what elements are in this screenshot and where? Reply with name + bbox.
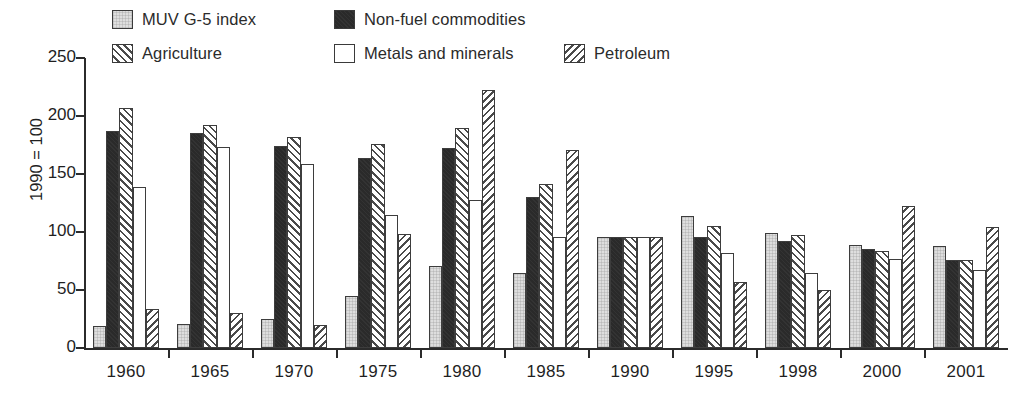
bar-muv-1985 [513, 273, 526, 348]
x-axis-tick-label-1970: 1970 [249, 362, 339, 382]
y-axis-tick-label: 100 [16, 221, 76, 241]
x-axis-tick-mark [252, 349, 254, 358]
bar-group-1985 [513, 57, 580, 348]
bar-nonfuel-1980 [442, 148, 455, 348]
bar-nonfuel-2000 [862, 249, 875, 348]
y-axis-tick-mark [76, 347, 85, 349]
bar-petro-2000 [902, 206, 915, 348]
bar-metals-1975 [385, 215, 398, 348]
bar-nonfuel-1990 [610, 237, 623, 348]
bar-metals-2001 [973, 270, 986, 348]
x-axis-tick-label-2000: 2000 [837, 362, 927, 382]
bar-nonfuel-1965 [190, 133, 203, 348]
bar-muv-1995 [681, 216, 694, 348]
bar-petro-1975 [398, 234, 411, 348]
bar-petro-1990 [650, 237, 663, 348]
bar-nonfuel-1975 [358, 158, 371, 348]
y-axis-tick-mark [76, 115, 85, 117]
bar-petro-1998 [818, 290, 831, 348]
bar-nonfuel-1960 [106, 131, 119, 348]
bar-muv-2000 [849, 245, 862, 348]
y-axis-tick-label: 200 [16, 105, 76, 125]
bar-agri-1990 [623, 237, 636, 348]
bar-muv-1965 [177, 324, 190, 348]
x-axis-tick-mark [840, 349, 842, 358]
bar-metals-1970 [301, 164, 314, 348]
bar-muv-2001 [933, 246, 946, 348]
bar-petro-1965 [230, 313, 243, 348]
y-axis-tick-label: 150 [16, 163, 76, 183]
bar-metals-1995 [721, 253, 734, 348]
bar-petro-2001 [986, 227, 999, 348]
bar-muv-1970 [261, 319, 274, 348]
bar-nonfuel-2001 [946, 260, 959, 348]
y-axis-tick-label: 250 [16, 47, 76, 67]
bar-group-2001 [933, 57, 1000, 348]
bar-nonfuel-1985 [526, 197, 539, 348]
bar-petro-1980 [482, 90, 495, 348]
bar-group-1980 [429, 57, 496, 348]
bar-metals-1965 [217, 147, 230, 348]
x-axis-tick-label-1980: 1980 [417, 362, 507, 382]
x-axis-tick-mark [336, 349, 338, 358]
bar-agri-2001 [959, 260, 972, 348]
bar-muv-1998 [765, 233, 778, 348]
x-axis-tick-label-1960: 1960 [81, 362, 171, 382]
x-axis-tick-mark [168, 349, 170, 358]
bar-metals-1980 [469, 200, 482, 348]
x-axis-tick-label-1995: 1995 [669, 362, 759, 382]
bar-group-2000 [849, 57, 916, 348]
bar-metals-1990 [637, 237, 650, 348]
bar-nonfuel-1998 [778, 241, 791, 348]
bar-metals-1960 [133, 187, 146, 348]
bar-group-1970 [261, 57, 328, 348]
bar-agri-2000 [875, 251, 888, 348]
y-axis-tick-mark [76, 289, 85, 291]
y-axis-tick-mark [76, 57, 85, 59]
x-axis-tick-mark [588, 349, 590, 358]
bar-agri-1965 [203, 125, 216, 348]
bar-petro-1960 [146, 309, 159, 348]
bar-muv-1960 [93, 326, 106, 348]
bar-metals-1985 [553, 237, 566, 348]
bar-metals-1998 [805, 273, 818, 348]
x-axis-tick-label-1985: 1985 [501, 362, 591, 382]
bar-group-1995 [681, 57, 748, 348]
bar-group-1998 [765, 57, 832, 348]
x-axis-line [84, 348, 1008, 350]
bar-muv-1990 [597, 237, 610, 348]
bar-nonfuel-1970 [274, 146, 287, 348]
bar-group-1965 [177, 57, 244, 348]
y-axis-line [84, 58, 86, 349]
bar-nonfuel-1995 [694, 237, 707, 348]
y-axis-label: 1990 = 100 [27, 80, 46, 240]
x-axis-tick-mark [924, 349, 926, 358]
x-axis-tick-mark [672, 349, 674, 358]
bar-chart-plot: 1990 = 100 050100150200250 1960196519701… [0, 0, 1022, 405]
bar-agri-1980 [455, 128, 468, 348]
bar-petro-1995 [734, 282, 747, 348]
x-axis-tick-label-1990: 1990 [585, 362, 675, 382]
bar-muv-1975 [345, 296, 358, 348]
x-axis-tick-mark [420, 349, 422, 358]
bar-petro-1985 [566, 150, 579, 348]
y-axis-tick-label: 0 [16, 337, 76, 357]
bar-agri-1975 [371, 144, 384, 348]
bar-agri-1960 [119, 108, 132, 348]
x-axis-tick-mark [756, 349, 758, 358]
y-axis-tick-mark [76, 231, 85, 233]
y-axis-tick-label: 50 [16, 279, 76, 299]
bar-petro-1970 [314, 325, 327, 348]
x-axis-tick-label-1998: 1998 [753, 362, 843, 382]
bar-agri-1970 [287, 137, 300, 348]
bar-group-1990 [597, 57, 664, 348]
x-axis-tick-label-1975: 1975 [333, 362, 423, 382]
bar-agri-1995 [707, 226, 720, 348]
y-axis-tick-mark [76, 173, 85, 175]
bar-agri-1998 [791, 235, 804, 348]
bar-agri-1985 [539, 184, 552, 348]
bar-group-1975 [345, 57, 412, 348]
bar-group-1960 [93, 57, 160, 348]
bar-muv-1980 [429, 266, 442, 348]
x-axis-tick-mark [504, 349, 506, 358]
